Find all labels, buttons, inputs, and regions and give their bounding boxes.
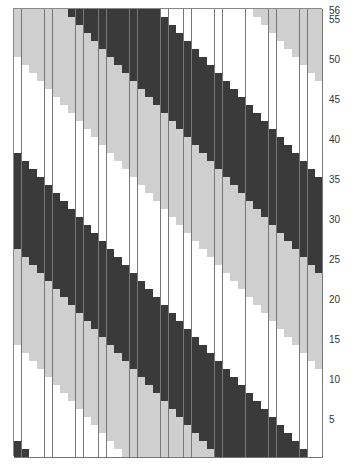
- chart-cell: [315, 449, 323, 458]
- row-label: 25: [329, 255, 340, 265]
- row-label: 5: [329, 415, 335, 425]
- knitting-chart-grid: [13, 8, 322, 456]
- row-label: 10: [329, 375, 340, 385]
- row-label: 35: [329, 175, 340, 185]
- row-label: 15: [329, 335, 340, 345]
- row-label: 40: [329, 135, 340, 145]
- row-label: 30: [329, 215, 340, 225]
- row-label: 55: [329, 15, 340, 25]
- row-label: 50: [329, 55, 340, 65]
- row-label: 20: [329, 295, 340, 305]
- row-label: 45: [329, 95, 340, 105]
